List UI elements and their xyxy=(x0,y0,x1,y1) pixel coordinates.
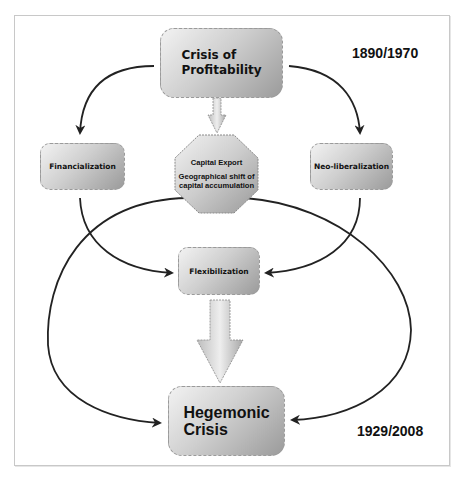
arrow-flexibilization-to-hegemonic xyxy=(197,300,243,383)
arrow-crisis-to-neoliberalization xyxy=(289,66,360,133)
arrow-crisis-to-financialization xyxy=(80,66,154,133)
node-crisis-of-profitability: Crisis of Profitability xyxy=(160,28,283,98)
node-neo-liberalization: Neo-liberalization xyxy=(310,143,393,190)
capital-export-title: Capital Export xyxy=(191,158,242,167)
capital-export-line2: capital accumulation xyxy=(179,181,254,190)
crisis-label-line2: Profitability xyxy=(181,63,261,78)
hegemonic-label-line1: Hegemonic xyxy=(183,404,269,421)
arrow-neoliberalization-to-flexibilization xyxy=(266,198,360,273)
node-flexibilization: Flexibilization xyxy=(178,247,260,295)
year-annotation-top: 1890/1970 xyxy=(352,45,418,61)
flexibilization-label: Flexibilization xyxy=(189,267,248,276)
arrow-capital-export-to-hegemonic-left xyxy=(48,198,188,423)
year-annotation-bottom: 1929/2008 xyxy=(357,423,423,439)
node-hegemonic-crisis: Hegemonic Crisis xyxy=(168,386,285,456)
node-capital-export: Capital Export Geographical shift of cap… xyxy=(175,135,258,213)
arrow-crisis-to-capital-export xyxy=(208,98,226,133)
financialization-label: Financialization xyxy=(49,162,116,171)
hegemonic-label-line2: Crisis xyxy=(183,421,269,438)
capital-export-line1: Geographical shift of xyxy=(179,172,255,181)
neo-liberalization-label: Neo-liberalization xyxy=(314,162,389,171)
node-financialization: Financialization xyxy=(40,143,125,190)
crisis-label-line1: Crisis of xyxy=(181,48,261,63)
